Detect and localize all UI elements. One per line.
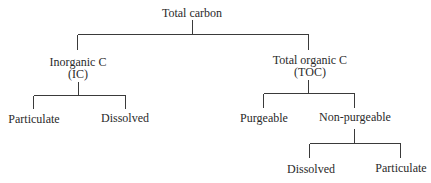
node-inorganic-c-abbrev: (IC) <box>68 68 88 80</box>
node-total-organic-c-abbrev: (TOC) <box>294 66 326 78</box>
node-purgeable: Purgeable <box>240 112 288 124</box>
node-total-carbon: Total carbon <box>162 7 222 19</box>
carbon-classification-tree: Total carbon Inorganic C (IC) Total orga… <box>0 0 431 183</box>
node-ic-particulate: Particulate <box>8 113 59 125</box>
node-ic-dissolved: Dissolved <box>101 112 149 124</box>
node-np-particulate: Particulate <box>375 162 426 174</box>
node-non-purgeable: Non-purgeable <box>319 111 391 123</box>
node-np-dissolved: Dissolved <box>287 163 335 175</box>
connector-lines <box>0 0 431 183</box>
